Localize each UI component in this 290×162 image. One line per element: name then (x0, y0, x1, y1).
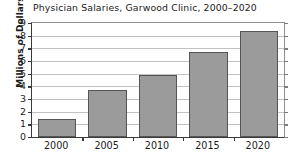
x-axis-labels: 20002005201020152020 (31, 140, 283, 151)
y-tick (28, 23, 32, 24)
bar-2000 (38, 119, 76, 137)
y-tick-label: 8 (20, 31, 26, 40)
bar-slot (32, 23, 82, 137)
y-tick-right (284, 124, 288, 125)
y-tick-right (284, 99, 288, 100)
chart-figure: Physician Salaries, Garwood Clinic, 2000… (0, 0, 290, 162)
y-tick (28, 112, 32, 113)
y-tick (28, 137, 32, 138)
y-tick-label: 5 (20, 69, 26, 78)
y-tick-right (284, 36, 288, 37)
bar-series (32, 23, 284, 137)
x-tick-label: 2015 (182, 140, 232, 151)
bar-slot (82, 23, 132, 137)
x-tick-label: 2000 (31, 140, 81, 151)
y-tick-label: 7 (20, 44, 26, 53)
y-tick (28, 48, 32, 49)
y-tick-right (284, 112, 288, 113)
y-tick-label: 2 (20, 107, 26, 116)
y-tick-right (284, 48, 288, 49)
y-tick-label: 3 (20, 94, 26, 103)
y-tick-label: 9 (20, 18, 26, 27)
y-tick-label: 4 (20, 82, 26, 91)
y-tick (28, 124, 32, 125)
x-tick-label: 2020 (233, 140, 283, 151)
y-tick-right (284, 137, 288, 138)
bar-2005 (88, 90, 126, 137)
y-tick (28, 86, 32, 87)
bar-2015 (189, 52, 227, 138)
bar-2010 (139, 75, 177, 137)
y-tick-right (284, 86, 288, 87)
y-tick (28, 61, 32, 62)
y-tick (28, 74, 32, 75)
bar-slot (234, 23, 284, 137)
y-tick-right (284, 74, 288, 75)
y-tick-right (284, 23, 288, 24)
chart-title: Physician Salaries, Garwood Clinic, 2000… (0, 2, 290, 13)
plot-area: 0123456789 (31, 22, 285, 138)
y-tick-right (284, 61, 288, 62)
bar-slot (183, 23, 233, 137)
y-tick-label: 1 (20, 120, 26, 129)
y-tick (28, 99, 32, 100)
y-tick-label: 0 (20, 132, 26, 141)
y-tick-label: 6 (20, 56, 26, 65)
y-tick (28, 36, 32, 37)
bar-slot (133, 23, 183, 137)
x-tick-label: 2010 (132, 140, 182, 151)
x-tick-label: 2005 (81, 140, 131, 151)
bar-2020 (240, 31, 278, 137)
